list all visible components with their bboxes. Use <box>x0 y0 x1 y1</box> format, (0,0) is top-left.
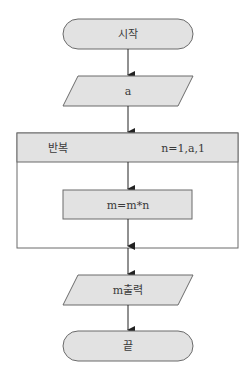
process-box: m=m*n <box>63 190 192 219</box>
loop-label: 반복 <box>48 142 68 155</box>
end-terminator: 끝 <box>63 331 193 361</box>
end-label: 끝 <box>123 340 133 353</box>
start-terminator: 시작 <box>63 19 193 49</box>
input-parallelogram: a <box>63 76 193 106</box>
loop-range: n=1,a,1 <box>161 142 205 155</box>
flowchart: 시작 a 반복 n=1,a,1 m=m*n m출력 끝 <box>0 0 250 383</box>
output-label: m출력 <box>113 284 143 297</box>
process-label: m=m*n <box>107 199 150 212</box>
input-label: a <box>125 85 132 98</box>
start-label: 시작 <box>118 28 138 41</box>
output-parallelogram: m출력 <box>63 275 193 305</box>
